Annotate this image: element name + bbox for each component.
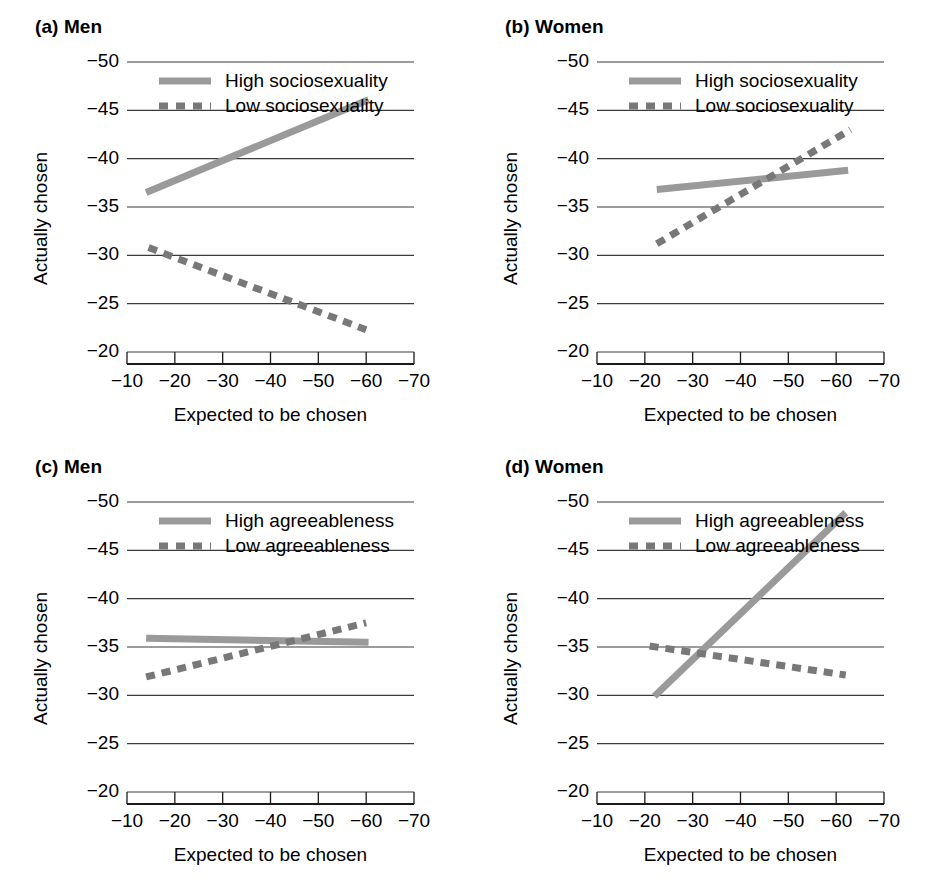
legend-key-dashed <box>157 535 213 557</box>
legend-key-dashed <box>627 95 683 117</box>
x-axis-label: Expected to be chosen <box>597 844 884 866</box>
x-tick-label: −70 <box>384 370 444 392</box>
x-axis-label: Expected to be chosen <box>127 404 414 426</box>
legend-key-dashed <box>157 95 213 117</box>
legend-key-solid <box>627 510 683 532</box>
plot-area <box>0 440 434 810</box>
legend-row: Low agreeableness <box>157 535 394 557</box>
legend-label: High sociosexuality <box>225 70 388 92</box>
x-tick-label: −70 <box>384 810 444 832</box>
chart-panel-c: (c) MenActually chosenExpected to be cho… <box>0 440 473 895</box>
legend-row: High agreeableness <box>627 510 864 532</box>
legend-key-solid <box>157 510 213 532</box>
x-axis-label: Expected to be chosen <box>597 404 884 426</box>
legend-label: High agreeableness <box>695 510 864 532</box>
legend-key-solid <box>157 70 213 92</box>
chart-legend: High agreeablenessLow agreeableness <box>157 510 394 560</box>
x-tick-label: −70 <box>854 810 914 832</box>
series-line <box>657 170 848 189</box>
legend-row: Low sociosexuality <box>627 95 858 117</box>
legend-key-solid <box>627 70 683 92</box>
legend-label: Low sociosexuality <box>225 95 383 117</box>
plot-area <box>0 0 434 370</box>
legend-row: High sociosexuality <box>157 70 388 92</box>
figure-root: (a) MenActually chosenExpected to be cho… <box>0 0 943 895</box>
series-line <box>149 248 367 330</box>
series-line <box>146 623 366 677</box>
chart-panel-d: (d) WomenActually chosenExpected to be c… <box>470 440 943 895</box>
legend-key-dashed <box>627 535 683 557</box>
legend-label: Low sociosexuality <box>695 95 853 117</box>
chart-legend: High sociosexualityLow sociosexuality <box>157 70 388 120</box>
legend-label: High agreeableness <box>225 510 394 532</box>
legend-label: High sociosexuality <box>695 70 858 92</box>
x-tick-label: −70 <box>854 370 914 392</box>
x-axis-label: Expected to be chosen <box>127 844 414 866</box>
legend-row: High sociosexuality <box>627 70 858 92</box>
chart-panel-b: (b) WomenActually chosenExpected to be c… <box>470 0 943 455</box>
legend-label: Low agreeableness <box>695 535 860 557</box>
series-line <box>146 638 368 642</box>
legend-label: Low agreeableness <box>225 535 390 557</box>
legend-row: Low agreeableness <box>627 535 864 557</box>
chart-legend: High sociosexualityLow sociosexuality <box>627 70 858 120</box>
plot-area <box>470 440 904 810</box>
legend-row: High agreeableness <box>157 510 394 532</box>
chart-panel-a: (a) MenActually chosenExpected to be cho… <box>0 0 473 455</box>
chart-legend: High agreeablenessLow agreeableness <box>627 510 864 560</box>
legend-row: Low sociosexuality <box>157 95 388 117</box>
plot-area <box>470 0 904 370</box>
